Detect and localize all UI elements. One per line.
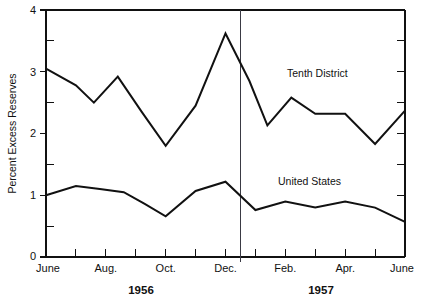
x-tick-label-apr-1957: Apr. xyxy=(335,262,355,274)
y-tick-label-4: 4 xyxy=(30,4,36,16)
series-line-united-states xyxy=(46,182,405,222)
x-tick-label-aug-1956: Aug. xyxy=(94,262,117,274)
x-tick-label-dec-1956: Dec. xyxy=(214,262,237,274)
x-axis-ticks xyxy=(46,249,405,257)
united-states-label: United States xyxy=(278,175,341,187)
y-axis-tick-labels: 4 3 2 1 0 xyxy=(30,4,36,262)
year-label-1957: 1957 xyxy=(308,284,334,296)
y-axis-ticks xyxy=(40,10,54,257)
year-label-1956: 1956 xyxy=(128,284,154,296)
y-tick-label-2: 2 xyxy=(30,127,36,139)
y-tick-label-3: 3 xyxy=(30,66,36,78)
y-axis-title: Percent Excess Reserves xyxy=(6,73,18,193)
y-tick-label-1: 1 xyxy=(30,189,36,201)
x-tick-label-oct-1956: Oct. xyxy=(156,262,176,274)
x-tick-label-feb-1957: Feb. xyxy=(274,262,296,274)
x-axis-tick-labels: June Aug. Oct. Dec. Feb. Apr. June xyxy=(36,262,414,274)
tenth-district-label: Tenth District xyxy=(287,67,348,79)
plot-frame xyxy=(46,10,405,257)
x-tick-label-june-1956: June xyxy=(36,262,60,274)
x-tick-label-june-1957: June xyxy=(390,262,414,274)
chart-figure: 4 3 2 1 0 Percent Excess Reserves Jun xyxy=(0,0,423,305)
series-line-tenth-district xyxy=(46,33,405,145)
excess-reserves-line-chart: 4 3 2 1 0 Percent Excess Reserves Jun xyxy=(0,0,423,305)
y-tick-label-0: 0 xyxy=(30,250,36,262)
